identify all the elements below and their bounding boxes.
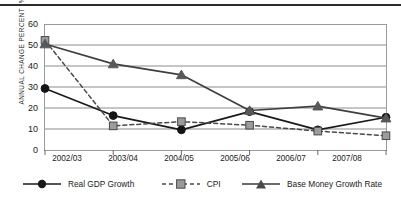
legend-swatch-triangle-icon — [241, 178, 281, 190]
legend-label-cpi: CPI — [207, 179, 221, 189]
legend-item-real-gdp-growth: Real GDP Growth — [22, 178, 134, 190]
legend-swatch-square-icon — [161, 178, 201, 190]
data-point-0-2 — [178, 126, 186, 134]
legend-label-base-money-growth-rate: Base Money Growth Rate — [287, 179, 382, 189]
plot-area — [0, 0, 401, 200]
legend-label-real-gdp-growth: Real GDP Growth — [68, 179, 134, 189]
data-point-1-3 — [246, 121, 254, 129]
data-point-1-5 — [382, 132, 390, 140]
data-point-1-4 — [314, 127, 322, 135]
data-point-0-0 — [41, 85, 49, 93]
legend-swatch-circle-icon — [22, 178, 62, 190]
legend-item-cpi: CPI — [161, 178, 221, 190]
data-point-1-2 — [178, 118, 186, 126]
data-point-1-1 — [109, 122, 117, 130]
chart-legend: Real GDP Growth CPI Base Money Growth Ra… — [22, 176, 382, 192]
data-point-0-1 — [109, 112, 117, 120]
chart-figure: ANNUAL CHANGE PERCENT (%) 60 50 40 30 20… — [0, 0, 401, 200]
legend-item-base-money-growth-rate: Base Money Growth Rate — [241, 178, 382, 190]
